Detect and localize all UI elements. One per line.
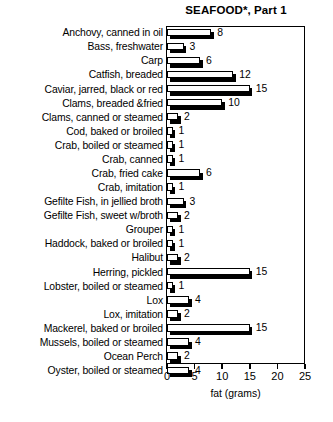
bar-value-label: 8 <box>217 27 223 39</box>
category-label: Clams, breaded &fried <box>62 98 163 110</box>
x-axis-title: fat (grams) <box>166 388 305 399</box>
bar-face <box>167 338 189 345</box>
category-label: Lox, imitation <box>103 309 163 321</box>
bar-value-label: 6 <box>206 55 212 67</box>
bar <box>167 226 176 237</box>
bar-value-label: 1 <box>179 280 185 292</box>
bar-value-label: 2 <box>184 252 190 264</box>
bar-face <box>167 296 189 303</box>
bar-row: Lox4 <box>0 295 333 309</box>
bar-face <box>167 310 178 317</box>
x-axis-tick <box>221 364 223 369</box>
bar-row: Halibut2 <box>0 252 333 266</box>
bar-row: Gefilte Fish, sweet w/broth2 <box>0 210 333 224</box>
x-axis-tick <box>166 364 168 369</box>
chart-page: SEAFOOD*, Part 1 Anchovy, canned in oil8… <box>0 0 333 422</box>
bar <box>167 169 203 180</box>
category-label: Lox <box>147 295 163 307</box>
bar-face <box>167 198 184 205</box>
bar-value-label: 1 <box>179 139 185 151</box>
category-label: Anchovy, canned in oil <box>62 27 163 39</box>
category-label: Caviar, jarred, black or red <box>45 84 164 96</box>
x-axis-tick <box>277 364 279 369</box>
category-label: Grouper <box>126 224 163 236</box>
bar-row: Catfish, breaded12 <box>0 69 333 83</box>
bar <box>167 183 176 194</box>
bar-row: Cod, baked or broiled1 <box>0 126 333 140</box>
bar <box>167 141 176 152</box>
bar-face <box>167 71 233 78</box>
x-axis-tick <box>194 364 196 369</box>
bar <box>167 282 176 293</box>
bar-row: Crab, fried cake6 <box>0 168 333 182</box>
bar <box>167 324 253 335</box>
category-label: Lobster, boiled or steamed <box>44 281 163 293</box>
bar <box>167 155 176 166</box>
bar <box>167 310 181 321</box>
bar <box>167 71 236 82</box>
x-axis-tick-label: 0 <box>152 370 182 383</box>
category-label: Halibut <box>131 252 163 264</box>
bar <box>167 268 253 279</box>
bar-face <box>167 155 173 162</box>
bar-face <box>167 268 250 275</box>
bar <box>167 85 253 96</box>
bar-row: Gefilte Fish, in jellied broth3 <box>0 196 333 210</box>
chart-title: SEAFOOD*, Part 1 <box>166 4 306 16</box>
bar-value-label: 2 <box>184 210 190 222</box>
category-label: Catfish, breaded <box>89 69 163 81</box>
category-label: Clams, canned or steamed <box>42 112 163 124</box>
bar-value-label: 10 <box>228 97 240 109</box>
bar-face <box>167 113 178 120</box>
category-label: Crab, canned <box>102 154 163 166</box>
bar-face <box>167 282 173 289</box>
category-label: Oyster, boiled or steamed <box>48 365 163 377</box>
bar <box>167 296 192 307</box>
bar-value-label: 1 <box>179 153 185 165</box>
category-label: Bass, freshwater <box>88 41 163 53</box>
bar-row: Anchovy, canned in oil8 <box>0 27 333 41</box>
bar-row: Caviar, jarred, black or red15 <box>0 84 333 98</box>
bar-value-label: 2 <box>184 350 190 362</box>
bar-face <box>167 352 178 359</box>
bar <box>167 57 203 68</box>
bar-value-label: 15 <box>256 83 268 95</box>
bar-row: Lobster, boiled or steamed1 <box>0 281 333 295</box>
bar-value-label: 4 <box>195 336 201 348</box>
bar-row: Crab, imitation1 <box>0 182 333 196</box>
x-axis-tick-label: 5 <box>180 370 210 383</box>
bar-row: Haddock, baked or broiled1 <box>0 238 333 252</box>
bar-row: Mussels, boiled or steamed4 <box>0 337 333 351</box>
category-label: Crab, fried cake <box>92 168 163 180</box>
bar-face <box>167 29 211 36</box>
bar-value-label: 4 <box>195 294 201 306</box>
bar-face <box>167 141 173 148</box>
bar-face <box>167 183 173 190</box>
bar <box>167 254 181 265</box>
bar-face <box>167 99 222 106</box>
bar-face <box>167 127 173 134</box>
bar <box>167 338 192 349</box>
x-axis-tick-label: 25 <box>290 370 320 383</box>
x-axis-tick <box>304 364 306 369</box>
bar <box>167 29 214 40</box>
bar-value-label: 12 <box>239 69 251 81</box>
bar-value-label: 2 <box>184 308 190 320</box>
bar <box>167 352 181 363</box>
bar-row: Herring, pickled15 <box>0 267 333 281</box>
bar-row: Clams, canned or steamed2 <box>0 112 333 126</box>
bar-value-label: 15 <box>256 266 268 278</box>
bar <box>167 240 176 251</box>
bar-value-label: 2 <box>184 111 190 123</box>
bar-face <box>167 43 184 50</box>
bar-value-label: 1 <box>179 181 185 193</box>
bar <box>167 212 181 223</box>
x-axis-tick-label: 10 <box>207 370 237 383</box>
bar-value-label: 3 <box>190 196 196 208</box>
category-label: Herring, pickled <box>93 267 163 279</box>
category-label: Mackerel, baked or broiled <box>44 323 163 335</box>
bar-value-label: 15 <box>256 322 268 334</box>
bar <box>167 198 187 209</box>
bar-value-label: 1 <box>179 238 185 250</box>
bar-row: Ocean Perch2 <box>0 351 333 365</box>
